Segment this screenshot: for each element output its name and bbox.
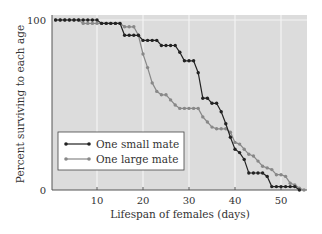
data-point xyxy=(77,18,80,21)
data-point xyxy=(109,22,112,25)
data-point xyxy=(270,185,273,188)
data-point xyxy=(279,185,282,188)
data-point xyxy=(201,115,204,118)
data-point xyxy=(146,66,149,69)
data-point xyxy=(155,39,158,42)
data-point xyxy=(169,44,172,47)
data-point xyxy=(210,102,213,105)
data-point xyxy=(82,22,85,25)
data-point xyxy=(160,93,163,96)
legend-label-large-mate: One large mate xyxy=(96,153,178,165)
data-point xyxy=(210,125,213,128)
data-point xyxy=(155,90,158,93)
data-point xyxy=(174,44,177,47)
data-point xyxy=(238,142,241,145)
data-point xyxy=(178,51,181,54)
data-point xyxy=(187,107,190,110)
data-point xyxy=(95,22,98,25)
data-point xyxy=(86,22,89,25)
legend-marker-large-mate xyxy=(64,157,68,161)
data-point xyxy=(183,59,186,62)
legend: One small mate One large mate xyxy=(58,132,184,170)
data-point xyxy=(289,185,292,188)
data-point xyxy=(192,59,195,62)
data-point xyxy=(247,153,250,156)
data-point xyxy=(128,34,131,37)
y-tick-label: 0 xyxy=(40,185,46,196)
legend-label-small-mate: One small mate xyxy=(96,138,179,150)
data-point xyxy=(68,18,71,21)
legend-marker-small-mate xyxy=(87,142,91,146)
data-point xyxy=(275,185,278,188)
data-point xyxy=(128,25,131,28)
data-point xyxy=(132,34,135,37)
data-point xyxy=(256,159,259,162)
data-point xyxy=(114,22,117,25)
data-point xyxy=(215,127,218,130)
data-point xyxy=(100,22,103,25)
data-point xyxy=(298,188,301,191)
data-point xyxy=(266,175,269,178)
data-point xyxy=(63,18,66,21)
data-point xyxy=(192,107,195,110)
data-point xyxy=(91,22,94,25)
data-point xyxy=(197,71,200,74)
data-point xyxy=(293,185,296,188)
data-point xyxy=(243,148,246,151)
y-tick-label: 100 xyxy=(27,15,46,26)
data-point xyxy=(220,127,223,130)
legend-marker-large-mate xyxy=(87,157,91,161)
data-point xyxy=(279,173,282,176)
x-tick-label: 40 xyxy=(229,195,242,206)
data-point xyxy=(151,81,154,84)
data-point xyxy=(256,171,259,174)
data-point xyxy=(187,59,190,62)
x-tick-label: 30 xyxy=(183,195,196,206)
legend-marker-small-mate xyxy=(64,142,68,146)
data-point xyxy=(105,22,108,25)
data-point xyxy=(284,185,287,188)
data-point xyxy=(302,188,305,191)
data-point xyxy=(206,97,209,100)
data-point xyxy=(201,97,204,100)
data-point xyxy=(86,18,89,21)
x-tick-label: 50 xyxy=(275,195,288,206)
data-point xyxy=(261,165,264,168)
data-point xyxy=(72,18,75,21)
data-point xyxy=(141,52,144,55)
data-point xyxy=(252,154,255,157)
data-point xyxy=(261,171,264,174)
data-point xyxy=(141,39,144,42)
x-axis-label: Lifespan of females (days) xyxy=(110,208,250,220)
x-tick-label: 20 xyxy=(137,195,150,206)
data-point xyxy=(233,141,236,144)
data-point xyxy=(160,44,163,47)
data-point xyxy=(151,39,154,42)
data-point xyxy=(54,18,57,21)
data-point xyxy=(252,171,255,174)
data-point xyxy=(206,120,209,123)
data-point xyxy=(243,158,246,161)
survival-chart: 1020304050 1000 Lifespan of females (day… xyxy=(0,0,322,234)
data-point xyxy=(224,122,227,125)
data-point xyxy=(284,175,287,178)
x-tick-label: 10 xyxy=(91,195,104,206)
data-point xyxy=(123,25,126,28)
data-point xyxy=(169,98,172,101)
data-point xyxy=(59,18,62,21)
y-axis-label: Percent surviving to each age xyxy=(14,25,26,183)
data-point xyxy=(118,22,121,25)
data-point xyxy=(197,107,200,110)
data-point xyxy=(123,34,126,37)
data-point xyxy=(289,182,292,185)
data-point xyxy=(270,168,273,171)
data-point xyxy=(238,151,241,154)
data-point xyxy=(233,148,236,151)
data-point xyxy=(137,34,140,37)
data-point xyxy=(95,18,98,21)
data-point xyxy=(132,25,135,28)
data-point xyxy=(275,173,278,176)
y-axis-ticks: 1000 xyxy=(27,15,46,196)
data-point xyxy=(164,93,167,96)
data-point xyxy=(174,103,177,106)
